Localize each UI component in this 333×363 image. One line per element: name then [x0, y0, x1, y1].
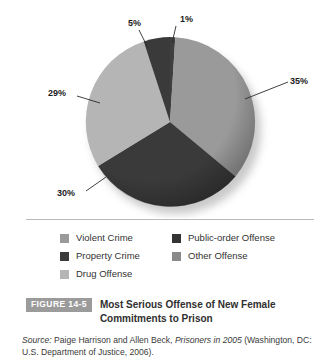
legend-row: Property Crime Other Offense [60, 247, 330, 265]
source-work-title: Prisoners in 2005 [175, 335, 242, 345]
caption-line: FIGURE 14-5 Most Serious Offense of New … [26, 298, 316, 325]
legend-row: Drug Offense [60, 265, 330, 283]
legend-swatch-icon [172, 234, 181, 243]
pie-value-label-29: 29% [48, 88, 66, 98]
figure-caption-title: Most Serious Offense of New Female Commi… [100, 298, 300, 325]
pie-rim-shading [85, 37, 255, 207]
figure-chart-area: 35% 30% 29% 5% 1% [0, 0, 333, 218]
legend-swatch-icon [60, 270, 69, 279]
legend-item-label: Drug Offense [76, 269, 132, 279]
figure-caption-block: FIGURE 14-5 Most Serious Offense of New … [26, 298, 316, 325]
legend-item-label: Other Offense [188, 251, 248, 261]
figure-number-badge: FIGURE 14-5 [26, 298, 92, 312]
legend-item-label: Property Crime [76, 251, 140, 261]
chart-legend: Violent Crime Public-order Offense Prope… [60, 229, 330, 283]
pie-value-label-30: 30% [57, 188, 75, 198]
source-authors: Paige Harrison and Allen Beck, [52, 335, 175, 345]
pie-chart [0, 0, 333, 218]
legend-row: Violent Crime Public-order Offense [60, 229, 330, 247]
pie-value-label-1: 1% [180, 14, 193, 24]
legend-divider-rule [26, 219, 314, 220]
legend-item-property-crime: Property Crime [60, 247, 140, 265]
legend-item-label: Violent Crime [76, 233, 133, 243]
source-note: Source: Paige Harrison and Allen Beck, P… [22, 334, 319, 359]
legend-item-drug-offense: Drug Offense [60, 265, 132, 283]
pie-value-label-5: 5% [128, 18, 141, 28]
legend-item-label: Public-order Offense [188, 233, 275, 243]
legend-item-other-offense: Other Offense [172, 247, 248, 265]
leader-line-35 [245, 82, 288, 99]
legend-swatch-icon [172, 252, 181, 261]
source-prefix: Source: [22, 335, 52, 345]
legend-swatch-icon [60, 252, 69, 261]
leader-line-30 [86, 177, 106, 191]
legend-swatch-icon [60, 234, 69, 243]
pie-value-label-35: 35% [290, 76, 308, 86]
legend-item-violent-crime: Violent Crime [60, 229, 133, 247]
legend-item-public-order-offense: Public-order Offense [172, 229, 275, 247]
